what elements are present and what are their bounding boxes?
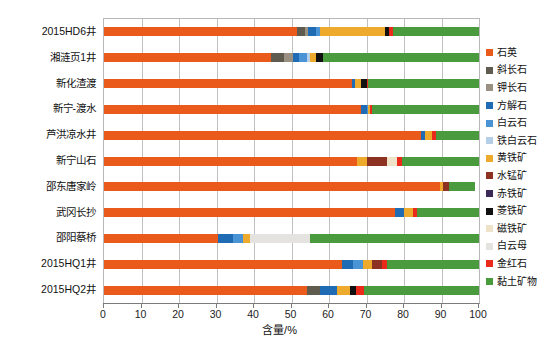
bar-segment [104, 260, 342, 269]
plot-area [103, 18, 480, 304]
legend-item[interactable]: 金红石 [486, 255, 558, 273]
legend-item[interactable]: 菱铁矿 [486, 202, 558, 220]
bar-segment [342, 260, 353, 269]
y-axis-category-label: 芦洪凉水井 [46, 129, 96, 140]
legend-item[interactable]: 磁铁矿 [486, 220, 558, 238]
bar-segment [299, 53, 307, 62]
bar-row [104, 27, 479, 36]
x-axis-tick-label: 10 [135, 308, 147, 320]
legend-swatch-icon [486, 172, 493, 179]
legend-swatch-icon [486, 260, 493, 267]
bar-segment [316, 53, 324, 62]
x-axis-tick-label: 20 [172, 308, 184, 320]
bar-segment [323, 53, 479, 62]
legend-label: 钾长石 [497, 83, 527, 93]
legend-swatch-icon [486, 190, 493, 197]
x-axis-tick-label: 50 [285, 308, 297, 320]
bar-segment [387, 260, 479, 269]
bar-row [104, 260, 479, 269]
legend-item[interactable]: 钾长石 [486, 79, 558, 97]
bar-segment [104, 79, 352, 88]
legend-swatch-icon [486, 120, 493, 127]
legend-label: 金红石 [497, 259, 527, 269]
bar-segment [308, 27, 316, 36]
legend-label: 黄铁矿 [497, 153, 527, 163]
bar-segment [104, 131, 421, 140]
bar-segment [436, 131, 479, 140]
bar-segment [104, 105, 361, 114]
bar-segment [104, 157, 357, 166]
legend-label: 赤铁矿 [497, 189, 527, 199]
x-axis-tick-label: 80 [397, 308, 409, 320]
legend-swatch-icon [486, 243, 493, 250]
bar-segment [320, 286, 337, 295]
bar-segment [357, 157, 366, 166]
bar-segment [449, 182, 475, 191]
legend-swatch-icon [486, 49, 493, 56]
bar-row [104, 131, 479, 140]
legend-item[interactable]: 白云石 [486, 114, 558, 132]
legend-label: 石英 [497, 48, 517, 58]
y-axis-category-label: 2015HQ1井 [41, 258, 96, 269]
bar-segment [387, 157, 396, 166]
bar-segment [402, 157, 479, 166]
bar-segment [353, 260, 362, 269]
x-axis-tick-label: 30 [210, 308, 222, 320]
bar-row [104, 208, 479, 217]
y-axis-category-label: 邵东唐家岭 [46, 180, 96, 191]
legend-item[interactable]: 水锰矿 [486, 167, 558, 185]
legend-item[interactable]: 赤铁矿 [486, 185, 558, 203]
bar-segment [307, 286, 320, 295]
bar-segment [250, 234, 310, 243]
legend-swatch-icon [486, 137, 493, 144]
legend-label: 白云母 [497, 241, 527, 251]
bar-row [104, 182, 479, 191]
legend-swatch-icon [486, 67, 493, 74]
legend-item[interactable]: 黄铁矿 [486, 150, 558, 168]
bar-segment [368, 79, 479, 88]
bar-segment [372, 260, 381, 269]
legend-label: 铁白云石 [497, 136, 537, 146]
y-axis-category-label: 2015HD6井 [42, 25, 96, 36]
y-axis-category-label: 新宁-渡水 [53, 103, 97, 114]
bar-segment [104, 53, 271, 62]
bar-segment [104, 286, 307, 295]
x-axis-title: 含量/% [0, 321, 559, 337]
bar-segment [104, 208, 395, 217]
bar-segment [243, 234, 251, 243]
bar-rows [104, 19, 479, 303]
legend-item[interactable]: 斜长石 [486, 62, 558, 80]
y-axis-category-label: 湘涟页1井 [50, 51, 96, 62]
legend-item[interactable]: 白云母 [486, 238, 558, 256]
bar-segment [395, 208, 404, 217]
legend-item[interactable]: 石英 [486, 44, 558, 62]
legend-label: 菱铁矿 [497, 206, 527, 216]
legend-item[interactable]: 铁白云石 [486, 132, 558, 150]
y-axis-category-label: 2015HQ2井 [41, 284, 96, 295]
x-axis-tick-label: 0 [100, 308, 106, 320]
legend-swatch-icon [486, 225, 493, 232]
y-axis-category-labels: 2015HD6井湘涟页1井新化渣渡新宁-渡水芦洪凉水井新宁山石邵东唐家岭武冈长抄… [0, 18, 100, 302]
bar-segment [363, 260, 372, 269]
bar-segment [350, 286, 357, 295]
legend-swatch-icon [486, 84, 493, 91]
y-axis-category-label: 邵阳蔡桥 [56, 232, 96, 243]
legend-label: 斜长石 [497, 65, 527, 75]
bar-row [104, 286, 479, 295]
legend-item[interactable]: 方解石 [486, 97, 558, 115]
legend-swatch-icon [486, 102, 493, 109]
bar-segment [337, 286, 350, 295]
y-axis-category-label: 新宁山石 [56, 155, 96, 166]
bar-segment [297, 27, 305, 36]
bar-segment [104, 27, 297, 36]
bar-segment [425, 131, 432, 140]
x-axis-ticks: 0102030405060708090100 [103, 303, 480, 323]
legend-label: 磁铁矿 [497, 224, 527, 234]
legend-item[interactable]: 黏土矿物 [486, 273, 558, 291]
bar-row [104, 157, 479, 166]
stacked-bar-chart: 2015HD6井湘涟页1井新化渣渡新宁-渡水芦洪凉水井新宁山石邵东唐家岭武冈长抄… [0, 0, 559, 342]
bar-segment [320, 27, 386, 36]
x-axis-tick-label: 100 [469, 308, 487, 320]
legend-label: 水锰矿 [497, 171, 527, 181]
bar-segment [367, 157, 388, 166]
